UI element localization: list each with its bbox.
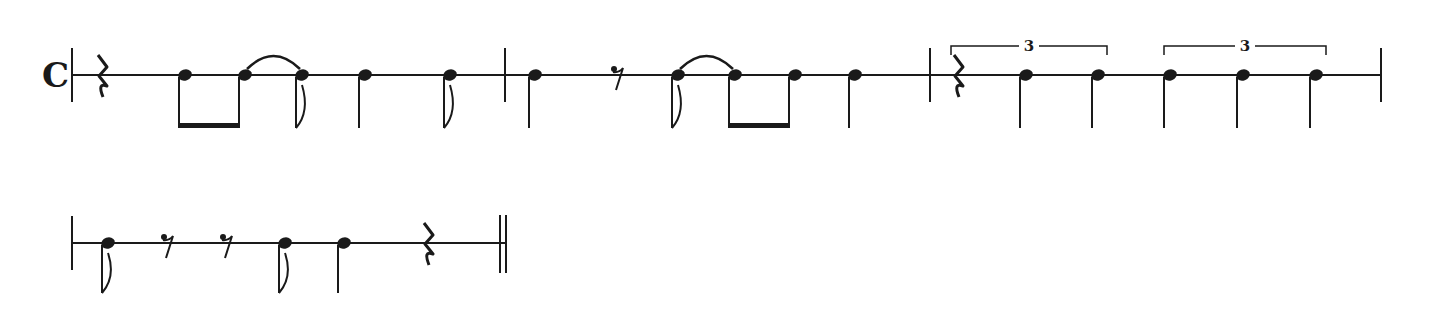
tie-icon <box>247 56 300 69</box>
eighth-rest-icon <box>222 236 232 258</box>
eighth-flag-icon <box>444 85 453 128</box>
rhythm-score: C33 <box>0 0 1453 319</box>
eighth-flag-icon <box>279 253 288 293</box>
eighth-rest-icon <box>163 236 173 258</box>
beam <box>178 123 240 128</box>
eighth-rest-icon <box>613 68 623 90</box>
eighth-flag-icon <box>296 85 305 128</box>
tie-icon <box>680 56 733 69</box>
tuplet-number: 3 <box>1024 37 1034 55</box>
time-signature-common-time: C <box>42 55 69 95</box>
beam <box>728 123 790 128</box>
tuplet-number: 3 <box>1240 37 1250 55</box>
eighth-flag-icon <box>672 85 681 128</box>
system-1: C33 <box>42 37 1381 128</box>
eighth-flag-icon <box>102 253 111 293</box>
system-2 <box>72 215 506 293</box>
